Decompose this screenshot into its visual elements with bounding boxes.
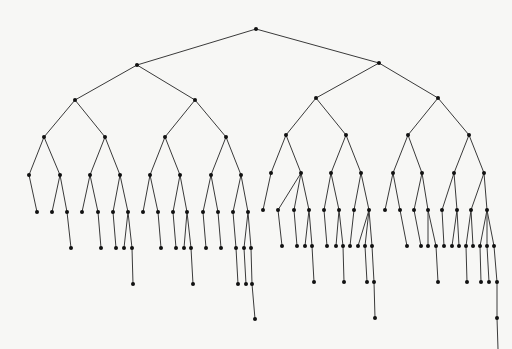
tree-edge [82, 175, 90, 212]
tree-node [189, 246, 193, 250]
tree-edge [251, 248, 252, 284]
tree-node [111, 210, 115, 214]
tree-node [253, 317, 257, 321]
tree-node [122, 246, 126, 250]
tree-edge [324, 210, 327, 246]
tree-edge [75, 65, 137, 100]
tree-edge [233, 212, 236, 248]
tree-node [201, 210, 205, 214]
tree-edge [150, 175, 158, 212]
tree-edge [44, 137, 60, 175]
tree-node [219, 246, 223, 250]
tree-node [224, 135, 228, 139]
tree-node [436, 96, 440, 100]
tree-edge [113, 212, 116, 248]
tree-edge [484, 173, 487, 210]
tree-node [492, 244, 496, 248]
tree-edge [454, 173, 457, 210]
tree-edge [379, 63, 438, 98]
tree-node [344, 133, 348, 137]
tree-edge [361, 173, 369, 210]
tree-node [312, 280, 316, 284]
tree-edge [286, 98, 316, 135]
tree-edge [236, 248, 238, 284]
tree-edge [408, 135, 422, 173]
tree-edge [436, 246, 438, 282]
tree-node [174, 246, 178, 250]
tree-node [130, 246, 134, 250]
tree-node [284, 133, 288, 137]
tree-edge [454, 135, 469, 173]
tree-node [65, 210, 69, 214]
tree-edge [343, 246, 344, 282]
tree-edge [203, 175, 211, 212]
tree-node [299, 171, 303, 175]
tree-edge [408, 98, 438, 135]
tree-node [246, 210, 250, 214]
tree-node [495, 280, 499, 284]
tree-edge [324, 173, 331, 210]
tree-node [495, 316, 499, 320]
tree-edge [137, 29, 256, 65]
tree-node [178, 173, 182, 177]
tree-node [182, 246, 186, 250]
tree-node [50, 210, 54, 214]
tree-node [442, 244, 446, 248]
tree-edge [316, 63, 379, 98]
tree-node [405, 244, 409, 248]
tree-edge [309, 210, 312, 246]
tree-node [383, 208, 387, 212]
tree-node [485, 208, 489, 212]
tree-edge [393, 173, 400, 210]
tree-edge [316, 98, 346, 135]
tree-edge [428, 210, 436, 246]
tree-node [236, 282, 240, 286]
tree-edge [218, 212, 221, 248]
tree-node [156, 210, 160, 214]
tree-edge [90, 137, 105, 175]
tree-node [171, 210, 175, 214]
tree-node [420, 171, 424, 175]
tree-edge [271, 135, 286, 173]
tree-edge [442, 173, 454, 210]
tree-edge [372, 246, 374, 282]
tree-node [434, 244, 438, 248]
tree-nodes [27, 27, 499, 321]
tree-edges [29, 29, 498, 349]
tree-node [372, 280, 376, 284]
tree-node [80, 210, 84, 214]
tree-edge [400, 210, 407, 246]
tree-node [27, 173, 31, 177]
tree-edge [128, 212, 132, 248]
tree-edge [60, 175, 67, 212]
tree-edge [75, 100, 105, 137]
tree-edge [180, 175, 187, 212]
tree-node [103, 135, 107, 139]
tree-node [367, 208, 371, 212]
tree-node [487, 280, 491, 284]
tree-edge [374, 282, 375, 318]
tree-node [249, 246, 253, 250]
tree-diagram [0, 0, 512, 349]
tree-node [69, 246, 73, 250]
tree-node [242, 246, 246, 250]
tree-edge [457, 210, 459, 246]
tree-node [261, 208, 265, 212]
tree-node [485, 244, 489, 248]
tree-node [412, 208, 416, 212]
tree-edge [44, 100, 75, 137]
tree-edge [471, 173, 484, 210]
tree-node [303, 244, 307, 248]
tree-edge [414, 173, 422, 210]
tree-node [292, 208, 296, 212]
tree-node [356, 244, 360, 248]
tree-edge [158, 212, 161, 248]
tree-edge [173, 175, 180, 212]
tree-node [204, 246, 208, 250]
tree-node [295, 244, 299, 248]
tree-node [341, 244, 345, 248]
tree-edge [369, 210, 372, 246]
tree-node [334, 244, 338, 248]
tree-edge [226, 137, 241, 175]
tree-node [42, 135, 46, 139]
